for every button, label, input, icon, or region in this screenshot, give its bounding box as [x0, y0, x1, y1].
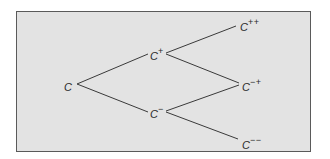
- node-downdown: C−−: [242, 137, 261, 151]
- node-downdown-base: C: [242, 139, 250, 151]
- node-downup-base: C: [242, 81, 250, 93]
- node-downdown-sup: −−: [250, 135, 262, 145]
- node-down-sup: −: [158, 104, 164, 114]
- edge-up-downup: [166, 54, 239, 83]
- node-up-sup: +: [158, 46, 164, 56]
- tree-edges: [0, 0, 330, 159]
- edge-down-downdown: [166, 112, 238, 139]
- node-downup: C−+: [242, 79, 261, 93]
- edge-root-down: [77, 84, 148, 112]
- node-upup: C++: [240, 19, 259, 33]
- node-upup-base: C: [240, 21, 248, 33]
- node-down: C−: [150, 106, 164, 120]
- node-downup-sup: −+: [250, 77, 262, 87]
- node-up: C+: [150, 48, 164, 62]
- node-upup-sup: ++: [248, 17, 260, 27]
- node-root: C: [64, 79, 72, 93]
- edge-up-upup: [166, 26, 236, 53]
- edge-down-downup: [166, 85, 239, 111]
- edge-root-up: [77, 54, 148, 84]
- node-up-base: C: [150, 50, 158, 62]
- node-root-base: C: [64, 81, 72, 93]
- node-down-base: C: [150, 108, 158, 120]
